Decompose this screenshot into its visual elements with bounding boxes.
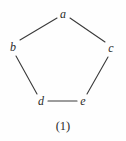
- figure-caption: (1): [0, 119, 126, 134]
- edge-c-e: [87, 57, 108, 94]
- vertex-label-b: b: [6, 41, 20, 53]
- edge-b-d: [16, 56, 37, 94]
- vertex-label-e: e: [76, 95, 90, 107]
- vertex-label-a: a: [56, 8, 70, 20]
- figure-container: a b c d e (1): [0, 0, 126, 141]
- vertex-label-d: d: [34, 95, 48, 107]
- edge-b-a: [20, 18, 57, 40]
- edge-a-c: [70, 18, 105, 42]
- vertex-label-c: c: [104, 42, 118, 54]
